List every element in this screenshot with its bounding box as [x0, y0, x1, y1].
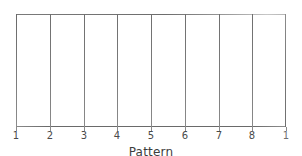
x-axis-title: Pattern: [0, 141, 302, 156]
column-divider: [50, 14, 51, 127]
plot-frame-right-border: [285, 14, 286, 127]
column-divider: [219, 14, 220, 127]
column-divider: [151, 14, 152, 127]
plot-area: [16, 14, 286, 127]
x-axis-title-label: Pattern: [129, 145, 174, 156]
column-divider: [84, 14, 85, 127]
column-divider: [117, 14, 118, 127]
plot-frame-left-border: [16, 14, 17, 127]
chart-figure: 123456781 Pattern: [0, 0, 302, 156]
column-divider: [252, 14, 253, 127]
column-divider: [185, 14, 186, 127]
